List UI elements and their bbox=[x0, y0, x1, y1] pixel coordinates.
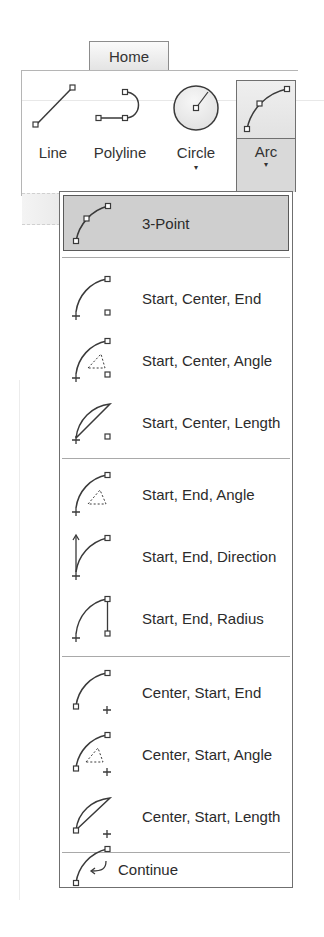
menu-item-center-start-end[interactable]: Center, Start, End bbox=[60, 666, 292, 718]
arc-start-end-direction-icon bbox=[68, 532, 118, 580]
ribbon-panel-footer bbox=[22, 193, 60, 225]
menu-item-label: Center, Start, Length bbox=[142, 808, 280, 825]
arc-button-top[interactable] bbox=[237, 81, 295, 139]
menu-item-start-center-length[interactable]: Start, Center, Length bbox=[60, 396, 292, 448]
arc-split-button[interactable]: Arc ▾ bbox=[236, 80, 296, 192]
menu-item-label: Start, Center, Angle bbox=[142, 352, 272, 369]
arc-start-center-length-icon bbox=[68, 398, 118, 446]
menu-item-center-start-angle[interactable]: Center, Start, Angle bbox=[60, 728, 292, 780]
line-button[interactable]: Line bbox=[28, 80, 78, 162]
circle-label: Circle bbox=[166, 144, 226, 162]
arc-3point-icon bbox=[68, 199, 118, 247]
polyline-label: Polyline bbox=[85, 144, 155, 162]
line-label: Line bbox=[28, 144, 78, 162]
menu-item-label: Center, Start, Angle bbox=[142, 746, 272, 763]
menu-item-start-end-direction[interactable]: Start, End, Direction bbox=[60, 530, 292, 582]
circle-button[interactable]: Circle ▾ bbox=[166, 80, 226, 172]
menu-item-start-end-angle[interactable]: Start, End, Angle bbox=[60, 468, 292, 520]
menu-item-label: Start, Center, Length bbox=[142, 414, 280, 431]
left-guide-line bbox=[19, 380, 20, 900]
menu-item-start-end-radius[interactable]: Start, End, Radius bbox=[60, 592, 292, 644]
arc-start-end-radius-icon bbox=[68, 594, 118, 642]
menu-item-start-center-angle[interactable]: Start, Center, Angle bbox=[60, 334, 292, 386]
menu-separator bbox=[62, 458, 290, 459]
arc-start-end-angle-icon bbox=[68, 470, 118, 518]
arc-dropdown-menu: 3-Point Start, Center, End Start, Center… bbox=[59, 191, 293, 888]
polyline-icon bbox=[85, 80, 155, 132]
tab-home-label: Home bbox=[90, 42, 168, 71]
tab-home[interactable]: Home bbox=[89, 41, 169, 71]
menu-item-center-start-length[interactable]: Center, Start, Length bbox=[60, 790, 292, 842]
arc-start-center-angle-icon bbox=[68, 336, 118, 384]
arc-center-start-angle-icon bbox=[68, 730, 118, 778]
arc-dropdown-button[interactable]: Arc ▾ bbox=[237, 139, 295, 192]
menu-separator bbox=[62, 257, 290, 258]
polyline-button[interactable]: Polyline bbox=[85, 80, 155, 162]
menu-item-label: 3-Point bbox=[142, 215, 190, 232]
arc-3point-icon bbox=[237, 81, 295, 138]
arc-label: Arc bbox=[237, 139, 295, 160]
menu-item-label: Continue bbox=[118, 861, 178, 878]
menu-item-start-center-end[interactable]: Start, Center, End bbox=[60, 272, 292, 324]
menu-item-label: Start, End, Angle bbox=[142, 486, 255, 503]
menu-item-label: Start, End, Radius bbox=[142, 610, 264, 627]
menu-item-label: Start, Center, End bbox=[142, 290, 261, 307]
arc-continue-icon bbox=[68, 841, 118, 889]
arc-dropdown-caret: ▾ bbox=[237, 160, 295, 169]
menu-item-label: Center, Start, End bbox=[142, 684, 261, 701]
menu-item-3-point[interactable]: 3-Point bbox=[63, 195, 289, 251]
menu-item-label: Start, End, Direction bbox=[142, 548, 276, 565]
menu-item-continue-row[interactable]: Continue bbox=[60, 855, 292, 887]
circle-icon bbox=[166, 80, 226, 132]
circle-dropdown-caret[interactable]: ▾ bbox=[166, 164, 226, 172]
arc-center-start-end-icon bbox=[68, 668, 118, 716]
ribbon-top-border bbox=[169, 70, 298, 71]
arc-start-center-end-icon bbox=[68, 274, 118, 322]
line-icon bbox=[28, 80, 78, 132]
menu-separator bbox=[62, 656, 290, 657]
arc-center-start-length-icon bbox=[68, 792, 118, 840]
